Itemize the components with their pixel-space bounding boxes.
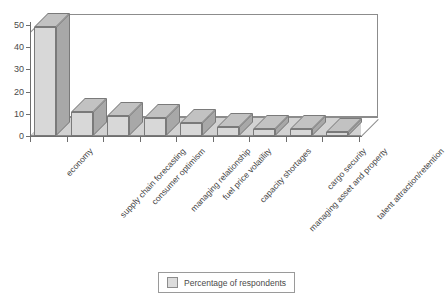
y-axis-tick: [26, 25, 31, 26]
bar-managing-relationship: [144, 118, 166, 136]
bar-front-face: [180, 123, 202, 136]
y-axis-line: [30, 22, 31, 136]
bar-supply-chain-forecasting: [71, 112, 93, 136]
y-axis-tick-label: 20: [14, 88, 24, 97]
bar-consumer-optimism: [107, 116, 129, 136]
bar-capacity-shortages: [217, 127, 239, 136]
y-axis-tick-label: 10: [14, 110, 24, 119]
bar-front-face: [217, 127, 239, 136]
x-axis-line: [30, 136, 362, 137]
y-axis-tick-label: 50: [14, 21, 24, 30]
bar-front-face: [326, 132, 348, 136]
bar-front-face: [107, 116, 129, 136]
y-axis-tick-label: 40: [14, 43, 24, 52]
bar-economy: [34, 27, 56, 136]
x-axis-category-labels: economysupply chain forecastingconsumer …: [0, 142, 396, 252]
legend-swatch-icon: [167, 277, 178, 288]
bar-managing-asset-and-property: [253, 129, 275, 136]
bar-front-face: [34, 27, 56, 136]
bar-front-face: [290, 129, 312, 136]
bar-fuel-price-volatility: [180, 123, 202, 136]
bar-cargo-security: [290, 129, 312, 136]
y-axis-tick: [26, 92, 31, 93]
bar-front-face: [71, 112, 93, 136]
bar-front-face: [253, 129, 275, 136]
y-axis-tick: [26, 47, 31, 48]
legend-label: Percentage of respondents: [184, 278, 286, 288]
chart-legend: Percentage of respondents: [158, 272, 295, 293]
plot-area: 01020304050: [0, 0, 396, 150]
y-axis-tick: [26, 114, 31, 115]
bar-talent-attraction-retention: [326, 132, 348, 136]
chart-frame-edge-right-bottom: [361, 119, 379, 137]
y-axis-tick-label: 30: [14, 65, 24, 74]
y-axis-tick-label: 0: [19, 132, 24, 141]
bar-side-face: [56, 13, 70, 136]
x-axis-label-economy: economy: [64, 146, 95, 178]
y-axis-tick: [26, 69, 31, 70]
bar-front-face: [144, 118, 166, 136]
